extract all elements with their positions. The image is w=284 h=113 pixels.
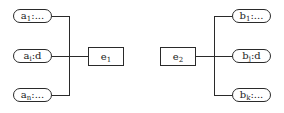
connector-bk [214, 95, 232, 96]
attribute-bk: bk:... [232, 88, 271, 102]
connector-b1 [214, 16, 232, 17]
attribute-an-suffix: :... [31, 89, 44, 100]
entity-e2: e2 [160, 47, 196, 66]
attribute-bj-suffix: :d [251, 50, 261, 61]
attribute-a1-suffix: :... [31, 10, 44, 21]
attribute-a1: a1:... [13, 9, 52, 23]
entity-e1-sub: 1 [107, 56, 111, 64]
right-vertical-bus [214, 16, 215, 96]
attribute-bj: bj:d [232, 49, 271, 63]
entity-e1: e1 [88, 47, 124, 66]
attribute-b1: b1:... [232, 9, 271, 23]
attribute-ai-suffix: :d [32, 50, 42, 61]
attribute-ai: ai:d [13, 49, 52, 63]
left-vertical-bus [69, 16, 70, 96]
attribute-b1-suffix: :... [250, 10, 263, 21]
attribute-an: an:... [13, 88, 52, 102]
attribute-bk-suffix: :... [250, 89, 263, 100]
connector-a1 [52, 16, 70, 17]
entity-e2-sub: 2 [179, 56, 183, 64]
connector-an [52, 95, 70, 96]
